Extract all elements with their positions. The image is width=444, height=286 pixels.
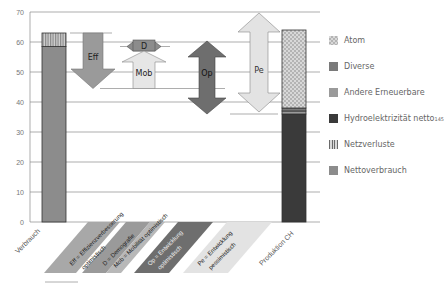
bar-produktion — [282, 30, 306, 222]
diverse-swatch — [329, 62, 338, 71]
segment-netzverluste — [42, 33, 66, 47]
legend-item-hydro: Hydroelektrizität netto145 — [329, 114, 444, 123]
arrow-d-label: D — [141, 42, 147, 51]
y-tick-30: 30 — [16, 129, 24, 136]
segment-nettoverbrauch — [42, 47, 66, 223]
nettoverbrauch-swatch — [329, 166, 338, 175]
hydro-swatch — [329, 114, 338, 123]
y-tick-0: 0 — [20, 219, 24, 226]
segment-hydro — [282, 114, 306, 222]
segment-diverse — [282, 108, 306, 111]
atom-swatch — [329, 36, 338, 45]
arrow-op: Op — [188, 41, 226, 114]
arrow-mob-label: Mob — [136, 69, 153, 78]
arrow-eff: Eff — [71, 33, 115, 89]
arrow-mob: Mob — [122, 51, 166, 89]
segment-atom — [282, 30, 306, 108]
y-tick-40: 40 — [16, 99, 24, 106]
segment-andere — [282, 111, 306, 114]
y-tick-10: 10 — [16, 189, 24, 196]
y-tick-70: 70 — [16, 9, 24, 16]
legend-item-andere: Andere Erneuerbare — [329, 88, 425, 97]
arrow-op-label: Op — [201, 69, 212, 78]
legend-item-atom: Atom — [329, 36, 365, 45]
y-tick-60: 60 — [16, 39, 24, 46]
arrow-eff-label: Eff — [88, 53, 99, 62]
netzverluste-swatch — [329, 140, 338, 149]
bar-verbrauch — [42, 33, 66, 222]
legend-item-netzverluste: Netzverluste — [329, 140, 395, 149]
legend-item-diverse: Diverse — [329, 62, 374, 71]
gridlines — [30, 12, 320, 222]
x-label-verbrauch: Verbrauch — [14, 227, 42, 255]
y-tick-20: 20 — [16, 159, 24, 166]
x-label-produktion: Produktion CH — [258, 230, 295, 267]
legend-item-nettoverbrauch: Nettoverbrauch — [329, 166, 407, 175]
arrow-pe-label: Pe — [254, 66, 264, 75]
arrow-pe: Pe — [238, 13, 280, 112]
y-tick-50: 50 — [16, 69, 24, 76]
andere-swatch — [329, 88, 338, 97]
